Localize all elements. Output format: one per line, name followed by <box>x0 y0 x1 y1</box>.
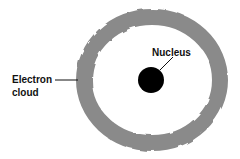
electron-cloud-label-line2: cloud <box>12 87 39 98</box>
atom-diagram: Nucleus Electron cloud <box>0 0 240 159</box>
nucleus-label: Nucleus <box>152 47 191 58</box>
nucleus <box>138 67 164 93</box>
electron-cloud-label-line1: Electron <box>12 74 52 85</box>
nucleus-leader-line <box>160 57 173 70</box>
